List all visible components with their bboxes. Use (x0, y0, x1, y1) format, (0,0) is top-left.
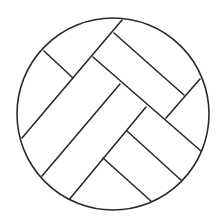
circle-outline (17, 18, 209, 210)
plank-edge-anti-3 (93, 57, 201, 151)
herringbone-circle-figure (0, 0, 224, 222)
plank-edge-diag-1 (22, 20, 122, 138)
plank-edge-anti-5 (103, 158, 152, 202)
herringbone-diagram (0, 0, 224, 222)
plank-edge-anti-4 (127, 131, 182, 181)
plank-edge-anti-1 (44, 51, 73, 78)
plank-edge-anti-2 (114, 33, 184, 95)
plank-lines (22, 20, 201, 202)
plank-edge-diag-4 (166, 79, 200, 118)
